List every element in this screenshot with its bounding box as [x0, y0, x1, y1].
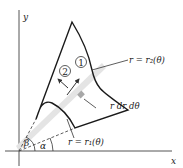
region-boundary: [36, 22, 128, 128]
marker-two-label: 2: [62, 67, 68, 77]
inner-curve-label: r = r₁(θ): [68, 137, 104, 147]
leader-element: [84, 99, 96, 108]
polar-region-diagram: 1 2 r = r₂(θ) r dr dθ r = r₁(θ) y x α β: [0, 0, 183, 168]
outer-curve-label: r = r₂(θ): [129, 55, 165, 65]
marker-one-label: 1: [78, 58, 84, 68]
alpha-label: α: [40, 141, 46, 151]
arrow-two: [58, 79, 68, 88]
element-label: r dr dθ: [110, 101, 140, 111]
leader-outer-curve: [92, 60, 128, 70]
leader-inner-curve: [67, 119, 74, 138]
angle-arc-alpha: [50, 138, 53, 151]
x-axis-label: x: [171, 156, 176, 166]
beta-label: β: [23, 138, 29, 148]
y-axis-label: y: [22, 12, 29, 22]
